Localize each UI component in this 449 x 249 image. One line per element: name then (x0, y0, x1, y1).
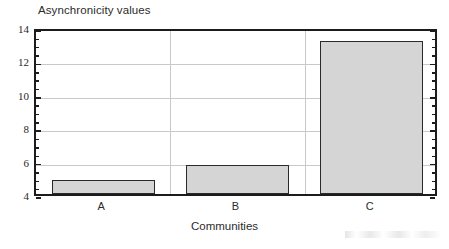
plot-area (34, 29, 437, 196)
x-axis-tick-labels: ABC (34, 200, 437, 216)
y-axis-tick-label: 10 (18, 90, 29, 102)
x-axis-title: Communities (0, 220, 449, 232)
y-axis-tick-labels: 468101214 (0, 29, 29, 196)
y-axis-tick-label: 6 (24, 157, 30, 169)
y-axis-tick-major (430, 197, 435, 199)
bars-container (36, 31, 435, 194)
bar-b (186, 165, 289, 194)
y-axis-tick-label: 14 (18, 23, 29, 35)
y-axis-tick-major (36, 197, 41, 199)
y-axis-tick-label: 8 (24, 123, 30, 135)
scan-artifact-smudge (345, 231, 441, 238)
chart-figure: Asynchronicity values 468101214 ABC Comm… (0, 0, 449, 249)
x-axis-tick-label: A (97, 200, 104, 212)
chart-title: Asynchronicity values (38, 4, 151, 16)
bar-a (52, 180, 155, 194)
x-axis-tick-label: B (232, 200, 239, 212)
y-axis-tick-label: 12 (18, 56, 29, 68)
y-axis-tick-label: 4 (24, 190, 30, 202)
x-axis-tick-label: C (366, 200, 374, 212)
bar-c (320, 41, 423, 194)
